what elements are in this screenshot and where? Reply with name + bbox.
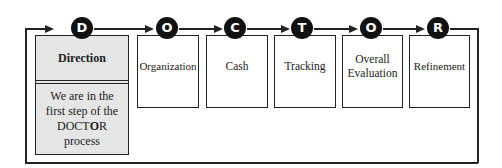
step-label: Tracking	[284, 59, 325, 73]
step-label: Overall Evaluation	[348, 52, 398, 80]
connector-o-r	[383, 28, 417, 30]
arrow-icon	[416, 25, 425, 33]
step-label: Direction	[36, 36, 128, 80]
letter-c-icon: C	[224, 17, 246, 39]
letter-r-icon: R	[427, 17, 449, 39]
letter-t-icon: T	[291, 17, 313, 39]
step-refinement-box: Refinement	[409, 35, 470, 108]
note-line: first step of the	[46, 104, 118, 119]
connector-c-t	[247, 28, 281, 30]
connector-t-o	[314, 28, 350, 30]
note-acronym: DOCTOR	[46, 119, 118, 134]
loop-bottom-line	[25, 162, 478, 164]
note-line: process	[46, 134, 118, 149]
arrow-into-d-icon	[45, 25, 54, 33]
loop-left-line	[25, 28, 27, 163]
arrow-icon	[145, 25, 154, 33]
arrow-icon	[281, 25, 290, 33]
step-organization-box: Organization	[137, 35, 199, 108]
connector-d-o	[94, 28, 146, 30]
loop-right-line	[477, 28, 479, 163]
letter-o-icon: O	[360, 17, 382, 39]
arrow-icon	[214, 25, 223, 33]
letter-d-icon: D	[71, 17, 93, 39]
step-label: Cash	[226, 59, 249, 73]
step-tracking-box: Tracking	[274, 35, 336, 108]
step-label: Refinement	[414, 59, 465, 73]
arrow-icon	[349, 25, 358, 33]
loop-top-right-line	[450, 28, 478, 30]
active-step-note: We are in the first step of the DOCTOR p…	[46, 84, 118, 149]
letter-o-icon: O	[156, 17, 178, 39]
step-label: Organization	[139, 59, 196, 73]
step-direction-box: Direction We are in the first step of th…	[35, 35, 129, 155]
connector-o-c	[179, 28, 215, 30]
step-cash-box: Cash	[206, 35, 268, 108]
step-overall-evaluation-box: Overall Evaluation	[342, 35, 403, 108]
note-line: We are in the	[46, 89, 118, 104]
loop-top-left-line	[25, 28, 47, 30]
